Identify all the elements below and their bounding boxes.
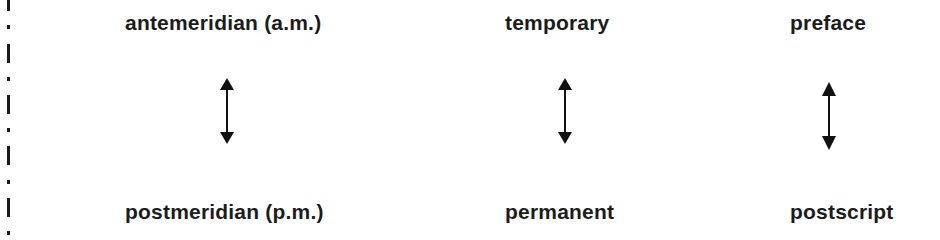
pair-2-top-word: temporary: [505, 11, 610, 35]
pair-1-bottom-word: postmeridian (p.m.): [125, 200, 324, 224]
double-arrow-icon: [556, 76, 574, 146]
pair-2-bottom-word: permanent: [505, 200, 614, 224]
double-arrow-icon: [820, 80, 838, 152]
dash-dot-divider-line: [7, 0, 11, 240]
pair-3-top-word: preface: [790, 11, 866, 35]
pair-3-bottom-word: postscript: [790, 200, 894, 224]
pair-1-top-word: antemeridian (a.m.): [125, 11, 321, 35]
double-arrow-icon: [218, 76, 236, 146]
